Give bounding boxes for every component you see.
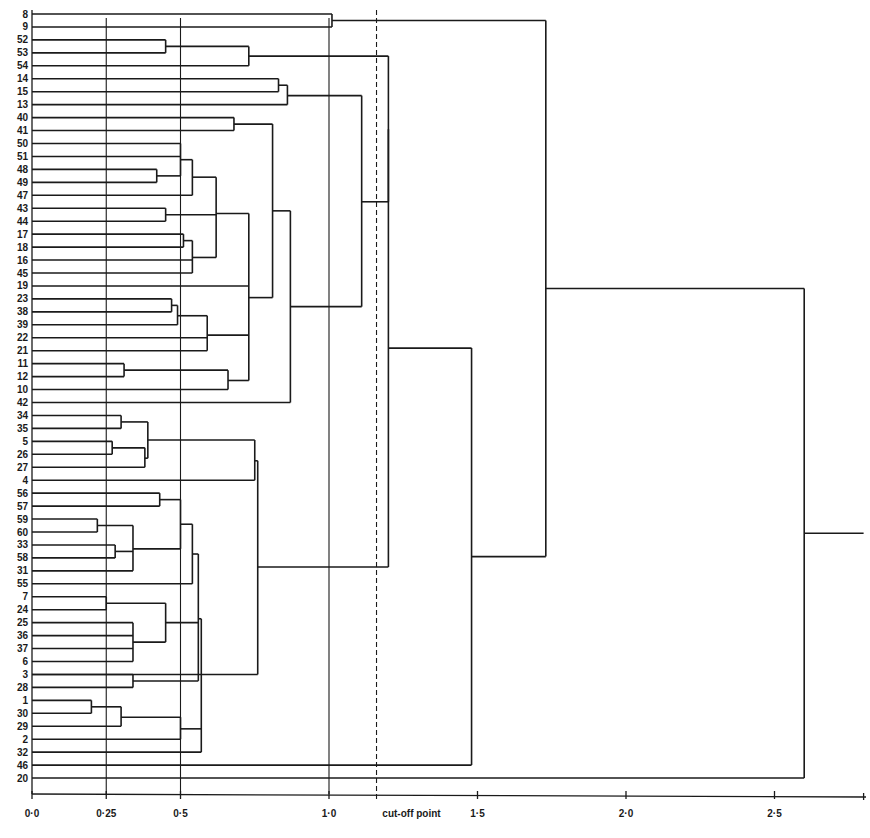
cutoff-label: cut-off point [382,808,441,819]
leaf-label: 35 [17,423,29,434]
dendrogram-chart: 8952535414151340415051484947434417181645… [0,0,870,838]
leaf-label: 9 [22,21,28,32]
x-tick-label: 1·5 [470,808,485,819]
x-tick-label: 0·0 [25,808,40,819]
leaf-label: 26 [17,449,29,460]
leaf-label: 4 [22,475,28,486]
leaf-label: 12 [17,371,29,382]
leaf-label: 32 [17,747,29,758]
leaf-label: 24 [17,604,29,615]
leaf-label: 21 [17,345,29,356]
leaf-label: 27 [17,462,29,473]
leaf-label: 8 [22,9,28,20]
leaf-label: 10 [17,384,29,395]
dendrogram-branches [32,14,864,778]
leaf-label: 19 [17,280,29,291]
leaf-label: 7 [22,591,28,602]
x-tick-label: 0·5 [173,808,188,819]
leaf-label: 38 [17,306,29,317]
x-tick-label: 0·25 [96,808,116,819]
leaf-label: 55 [17,578,29,589]
leaf-label: 48 [17,164,29,175]
leaf-label: 54 [17,60,29,71]
leaf-label: 23 [17,293,29,304]
leaf-label: 57 [17,501,29,512]
leaf-label: 59 [17,514,29,525]
leaf-label: 45 [17,268,29,279]
leaf-label: 56 [17,488,29,499]
leaf-label: 20 [17,773,29,784]
leaf-label: 46 [17,760,29,771]
leaf-label: 14 [17,73,29,84]
leaf-label: 52 [17,34,29,45]
leaf-label: 53 [17,47,29,58]
x-tick-label: 2·0 [619,808,634,819]
leaf-label: 16 [17,255,29,266]
leaf-label: 44 [17,216,29,227]
x-axis: 0·00·250·51·01·52·02·5cut-off point [25,791,866,819]
leaf-label: 51 [17,151,29,162]
leaf-label: 15 [17,86,29,97]
leaf-label: 13 [17,99,29,110]
leaf-label: 22 [17,332,29,343]
leaf-label: 11 [17,358,28,369]
leaf-label: 34 [17,410,29,421]
leaf-label: 47 [17,190,29,201]
leaf-label: 49 [17,177,29,188]
leaf-label: 3 [22,669,28,680]
leaf-label: 42 [17,397,29,408]
leaf-label: 1 [22,695,28,706]
leaf-label: 2 [22,734,28,745]
x-tick-label: 1·0 [322,808,337,819]
leaf-label: 25 [17,617,29,628]
leaf-label: 50 [17,138,29,149]
leaf-label: 36 [17,630,29,641]
leaf-label: 37 [17,643,29,654]
x-tick-label: 2·5 [767,808,782,819]
leaf-label: 6 [22,656,28,667]
leaf-label: 60 [17,527,29,538]
leaf-label: 30 [17,708,29,719]
leaf-label: 5 [22,436,28,447]
x-axis-line [32,794,866,797]
leaf-label: 31 [17,565,29,576]
leaf-label: 41 [17,125,29,136]
leaf-label: 58 [17,552,29,563]
leaf-labels: 8952535414151340415051484947434417181645… [17,9,29,784]
leaf-label: 40 [17,112,29,123]
leaf-label: 39 [17,319,29,330]
leaf-label: 28 [17,682,29,693]
leaf-label: 29 [17,721,29,732]
leaf-label: 43 [17,203,29,214]
leaf-label: 18 [17,242,29,253]
leaf-label: 33 [17,539,29,550]
leaf-label: 17 [17,229,29,240]
